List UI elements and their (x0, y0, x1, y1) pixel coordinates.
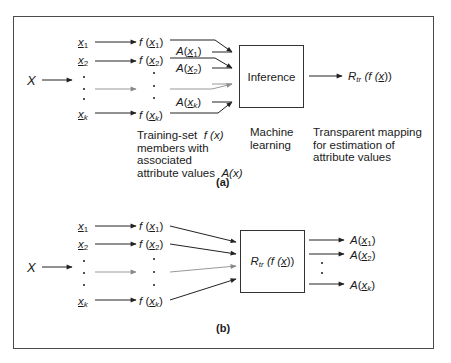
f-x2-a: f (x2) (139, 54, 163, 70)
rtr-mapping-box: Rtr (f (x)) (240, 230, 305, 293)
member-x1-b: x1 (78, 220, 88, 236)
ellipsis-dot (83, 76, 85, 78)
member-x2-b: x2 (78, 238, 88, 254)
ellipsis-dot (83, 88, 85, 90)
f-xk-b: f (xk) (139, 295, 163, 311)
inference-label: Inference (248, 71, 296, 83)
output-attr-x2-b: A(x2) (350, 249, 376, 265)
member-xk-b: xk (78, 295, 88, 311)
part-b-label: (b) (216, 322, 230, 334)
caption-training-set: Training-set f (x) members with associat… (137, 129, 242, 179)
f-x1-b: f (x1) (139, 220, 163, 236)
input-x-b: X (27, 261, 36, 274)
input-x-a: X (27, 74, 36, 87)
ellipsis-dot (153, 271, 155, 273)
ellipsis-dot (153, 284, 155, 286)
rtr-mapping-label: Rtr (f (x)) (251, 255, 295, 269)
f-x1-a: f (x1) (139, 36, 163, 52)
member-x2-a: x2 (78, 54, 88, 70)
ellipsis-dot (83, 284, 85, 286)
ellipsis-dot (83, 272, 85, 274)
output-attr-x1-b: A(x1) (350, 234, 376, 250)
ellipsis-dot (83, 260, 85, 262)
f-x2-b: f (x2) (139, 238, 163, 254)
ellipsis-dot (83, 98, 85, 100)
caption-transparent-mapping: Transparent mapping for estimation of at… (313, 126, 422, 164)
part-a-label: (a) (216, 176, 229, 188)
attr-x2-a: A(x2) (176, 62, 202, 78)
ellipsis-dot (153, 258, 155, 260)
ellipsis-dot (153, 85, 155, 87)
attr-xk-a: A(xk) (176, 96, 201, 112)
ellipsis-dot (321, 262, 323, 264)
member-x1-a: x1 (78, 36, 88, 52)
caption-machine-learning: Machine learning (250, 126, 293, 151)
inference-box: Inference (239, 45, 304, 108)
ellipsis-dot (153, 97, 155, 99)
ellipsis-dot (153, 72, 155, 74)
output-attr-xk-b: A(xk) (350, 279, 375, 295)
member-xk-a: xk (78, 108, 88, 124)
attr-x1-a: A(x1) (176, 45, 202, 61)
f-xk-a: f (xk) (139, 109, 163, 125)
ellipsis-dot (321, 272, 323, 274)
output-rtr-a: Rtr (f (x)) (348, 70, 392, 86)
